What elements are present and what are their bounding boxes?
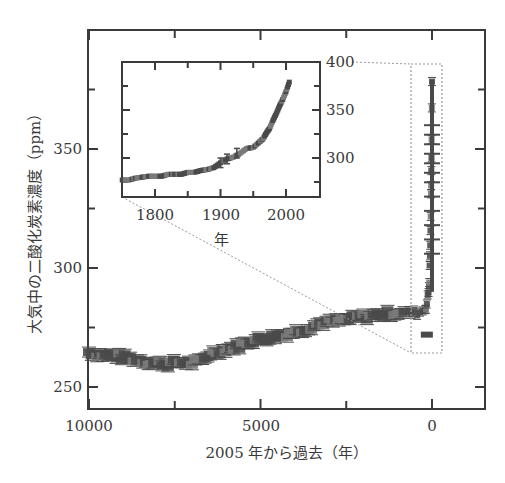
main-x-tick-10000: 10000 <box>65 417 113 435</box>
main-x-axis-title: 2005 年から過去（年） <box>206 444 369 462</box>
main-y-tick-350: 350 <box>53 140 82 158</box>
leader-line-top <box>352 62 411 64</box>
co2-chart: 350 300 250 10000 5000 0 2005 年から過去（年） 大… <box>0 0 505 483</box>
main-y-tick-300: 300 <box>53 259 82 277</box>
main-y-tick-250: 250 <box>53 378 82 396</box>
inset-y-tick-350: 350 <box>326 101 355 119</box>
inset-y-tick-300: 300 <box>326 149 355 167</box>
data-point <box>423 300 431 308</box>
inset-x-tick-1800: 1800 <box>136 206 174 224</box>
inset-x-tick-1900: 1900 <box>202 206 240 224</box>
inset-y-tick-400: 400 <box>326 53 355 71</box>
data-point <box>421 332 433 338</box>
inset-x-axis-title: 年 <box>214 231 229 249</box>
chart-canvas: 350 300 250 10000 5000 0 2005 年から過去（年） 大… <box>0 0 505 483</box>
inset-data-point <box>287 80 292 85</box>
main-y-axis-title: 大気中の二酸化炭素濃度（ppm） <box>26 106 44 334</box>
inset-x-tick-2000: 2000 <box>267 206 305 224</box>
main-x-tick-0: 0 <box>427 417 437 435</box>
main-x-tick-5000: 5000 <box>242 417 280 435</box>
